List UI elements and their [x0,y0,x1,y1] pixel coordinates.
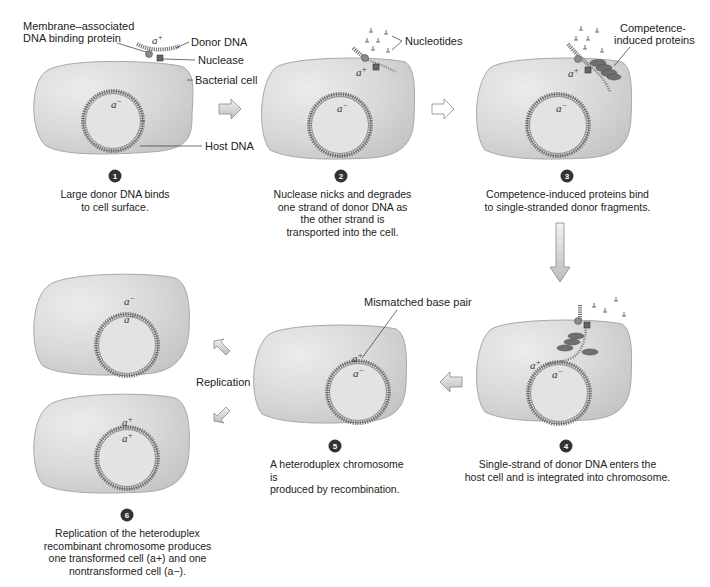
label-replication: Replication [196,376,250,388]
step-6-transformed-cell: a+ a+ 6 [34,394,190,521]
caption-line: host cell and is integrated into chromos… [450,471,685,484]
label-competence-proteins-1: Competence- [620,22,686,34]
caption-line: to cell surface. [35,201,195,214]
step-3: a− a+ Competence- induced proteins 3 [477,22,696,183]
donor-dna [137,44,180,50]
caption-line: the other strand is [260,213,425,226]
nuclease-icon [373,64,379,70]
caption-line: one transformed cell (a+) and one [30,552,225,565]
step-6-nontransformed-cell: a− a− [34,274,190,376]
svg-text:1: 1 [113,172,118,181]
nucleotides-icon [574,26,604,52]
caption-step-6: Replication of the heteroduplex recombin… [30,527,225,577]
svg-text:4: 4 [564,442,569,451]
donor-allele: a+ [152,33,163,47]
step-1: a− a+ Membrane–associated DNA binding pr… [23,20,257,183]
svg-text:3: 3 [565,172,570,181]
nuclease-icon [585,67,591,73]
label-mismatch: Mismatched base pair [364,296,472,308]
svg-text:2: 2 [339,172,344,181]
caption-step-3: Competence-induced proteins bind to sing… [470,188,665,213]
caption-line: A heteroduplex chromosome is [270,458,410,483]
caption-step-2: Nuclease nicks and degrades one strand o… [260,188,425,238]
nucleotides-icon [592,297,626,316]
caption-line: nontransformed cell (a−). [30,565,225,578]
caption-line: one strand of donor DNA as [260,201,425,214]
membrane-protein-icon [146,51,153,58]
caption-line: Large donor DNA binds [35,188,195,201]
svg-text:6: 6 [125,511,130,520]
label-competence-proteins-2: induced proteins [614,34,695,46]
caption-step-4: Single-strand of donor DNA enters the ho… [450,458,685,483]
caption-step-5: A heteroduplex chromosome is produced by… [270,458,410,496]
caption-line: Competence-induced proteins bind [470,188,665,201]
caption-line: Nuclease nicks and degrades [260,188,425,201]
arrow-right-icon [219,99,241,119]
nucleotides-icon [365,28,390,52]
arrow-left-icon [440,372,462,392]
label-membrane-protein-1: Membrane–associated [23,20,134,32]
nuclease-icon [157,55,163,61]
caption-step-1: Large donor DNA binds to cell surface. [35,188,195,213]
membrane-protein-icon [575,318,582,325]
label-nucleotides: Nucleotides [405,35,463,47]
label-nuclease: Nuclease [198,54,244,66]
svg-text:5: 5 [333,442,338,451]
caption-line: recombinant chromosome produces [30,540,225,553]
arrow-up-left-icon [214,339,230,355]
membrane-protein-icon [575,56,582,63]
arrow-right-icon [432,99,454,119]
membrane-protein-icon [362,55,369,62]
label-bacterial-cell: Bacterial cell [195,74,257,86]
caption-line: Single-strand of donor DNA enters the [450,458,685,471]
arrow-down-left-icon [214,407,230,423]
label-donor-dna: Donor DNA [191,36,248,48]
label-host-dna: Host DNA [205,140,255,152]
step-4: a+ a− 4 [477,297,632,453]
caption-line: Replication of the heteroduplex [30,527,225,540]
nuclease-icon [584,322,590,328]
caption-line: to single-stranded donor fragments. [470,201,665,214]
arrow-down-icon [550,223,570,282]
transformation-diagram: a− a+ Membrane–associated DNA binding pr… [0,0,710,587]
step-5: a+ a− Mismatched base pair 5 [254,296,472,453]
caption-line: produced by recombination. [270,483,410,496]
caption-line: transported into the cell. [260,226,425,239]
label-membrane-protein-2: DNA binding protein [23,32,121,44]
